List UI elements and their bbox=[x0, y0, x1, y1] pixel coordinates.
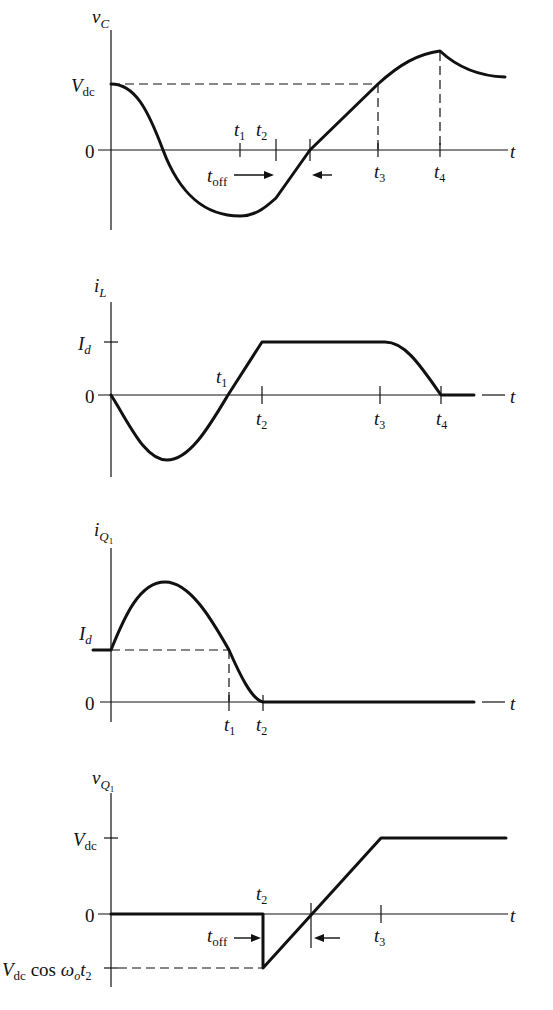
il-zero-label: 0 bbox=[85, 386, 95, 407]
vc-ylabel: vC bbox=[92, 6, 109, 31]
waveform-diagram: vC Vdc 0 t t1 t2 t3 t4 toff iL Id 0 t bbox=[0, 0, 553, 1010]
vq-toff-arrowhead-left bbox=[314, 934, 324, 942]
plot-iq1: iQ1 Id 0 t t1 t2 bbox=[78, 519, 516, 738]
il-ylabel: iL bbox=[94, 275, 107, 300]
iq-ylabel: iQ1 bbox=[94, 519, 113, 546]
vc-curve bbox=[111, 51, 505, 216]
plot-vc: vC Vdc 0 t t1 t2 t3 t4 toff bbox=[71, 6, 516, 230]
iq-id-label: Id bbox=[78, 623, 92, 647]
plot-il: iL Id 0 t t1 t2 t3 t4 bbox=[77, 275, 516, 477]
vq-ylabel: vQ1 bbox=[92, 767, 114, 794]
vc-t-label: t bbox=[510, 141, 516, 162]
vc-t3-label: t3 bbox=[374, 161, 385, 185]
vc-toff-label: toff bbox=[207, 165, 228, 189]
iq-t2-label: t2 bbox=[256, 714, 267, 738]
vq-t2-label: t2 bbox=[256, 883, 267, 907]
iq-t1-label: t1 bbox=[224, 714, 235, 738]
plot-vq1: vQ1 Vdc 0 t Vdc cos ωot2 t2 t3 toff bbox=[2, 767, 516, 987]
il-t1-label: t1 bbox=[216, 366, 227, 390]
vc-t2-label: t2 bbox=[256, 119, 267, 143]
vc-toff-arrowhead-right bbox=[264, 171, 274, 179]
il-t2-label: t2 bbox=[256, 408, 267, 432]
vc-zero-label: 0 bbox=[85, 141, 95, 162]
vq-t3-label: t3 bbox=[374, 925, 385, 949]
iq-zero-label: 0 bbox=[85, 693, 95, 714]
iq-curve bbox=[93, 582, 474, 702]
il-curve bbox=[111, 342, 474, 460]
il-t4-label: t4 bbox=[436, 408, 447, 432]
vq-toff-label: toff bbox=[207, 925, 228, 949]
vq-zero-label: 0 bbox=[85, 905, 95, 926]
iq-t-label: t bbox=[510, 693, 516, 714]
vq-toff-arrowhead-right bbox=[251, 934, 261, 942]
vq-t-label: t bbox=[510, 905, 516, 926]
il-t-label: t bbox=[510, 386, 516, 407]
vc-t1-label: t1 bbox=[234, 119, 245, 143]
vq-curve bbox=[111, 838, 506, 968]
vc-vdc-label: Vdc bbox=[71, 75, 95, 99]
il-t3-label: t3 bbox=[374, 408, 385, 432]
vq-vdc-label: Vdc bbox=[73, 829, 97, 853]
vc-toff-arrowhead-left bbox=[312, 171, 322, 179]
vq-low-label: Vdc cos ωot2 bbox=[2, 959, 91, 983]
vc-t4-label: t4 bbox=[434, 161, 445, 185]
il-id-label: Id bbox=[77, 333, 91, 357]
